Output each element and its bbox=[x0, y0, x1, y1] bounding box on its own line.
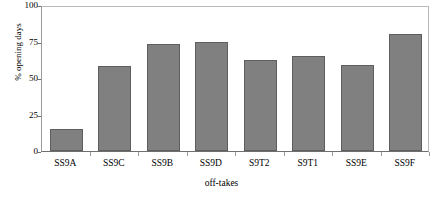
bar-chart: % opening days 0255075100 SS9ASS9CSS9BSS… bbox=[0, 0, 443, 200]
bar-ss9c bbox=[98, 66, 131, 151]
x-axis-tick-label: S9T1 bbox=[284, 158, 333, 168]
x-axis-tick-labels: SS9ASS9CSS9BSS9DS9T2S9T1SS9ESS9F bbox=[41, 158, 429, 172]
bar-s9t2 bbox=[244, 60, 277, 151]
bars-layer bbox=[42, 7, 428, 151]
y-axis-tick-label: 75 bbox=[12, 38, 38, 47]
x-axis-title: off-takes bbox=[0, 178, 443, 188]
y-axis-tick-mark bbox=[37, 152, 41, 153]
y-axis-tick-label: 25 bbox=[12, 111, 38, 120]
plot-area bbox=[41, 6, 429, 152]
x-axis-tick-mark bbox=[284, 152, 285, 156]
x-axis-tick-mark bbox=[138, 152, 139, 156]
bar-ss9f bbox=[389, 34, 422, 151]
y-axis-tick-label: 50 bbox=[12, 74, 38, 83]
y-axis-tick-label: 100 bbox=[12, 1, 38, 10]
x-axis-tick-label: SS9E bbox=[332, 158, 381, 168]
bar-ss9a bbox=[50, 129, 83, 151]
x-axis-tick-label: SS9C bbox=[90, 158, 139, 168]
x-axis-tick-mark bbox=[381, 152, 382, 156]
x-axis-tick-label: SS9B bbox=[138, 158, 187, 168]
x-axis-tick-mark bbox=[90, 152, 91, 156]
bar-ss9e bbox=[341, 65, 374, 151]
x-axis-tick-mark bbox=[235, 152, 236, 156]
x-axis-tick-label: SS9D bbox=[187, 158, 236, 168]
x-axis-tick-label: SS9F bbox=[381, 158, 430, 168]
x-axis-tick-label: SS9A bbox=[41, 158, 90, 168]
x-axis-tick-mark bbox=[429, 152, 430, 156]
y-axis-tick-label: 0 bbox=[12, 147, 38, 156]
x-axis-tick-mark bbox=[332, 152, 333, 156]
x-axis-tick-mark bbox=[187, 152, 188, 156]
bar-s9t1 bbox=[292, 56, 325, 151]
y-axis-tick-labels: 0255075100 bbox=[10, 0, 38, 200]
bar-ss9d bbox=[195, 42, 228, 152]
bar-ss9b bbox=[147, 44, 180, 151]
x-axis-tick-label: S9T2 bbox=[235, 158, 284, 168]
